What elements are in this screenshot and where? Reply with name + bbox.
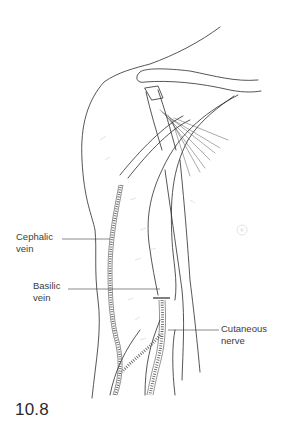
cephalic-vein-label: Cephalic vein [16, 231, 53, 255]
figure-canvas: Cephalic vein Basilic vein Cutaneous ner… [0, 0, 289, 433]
cephalic-vein-path [110, 185, 121, 395]
shoulder-contour [82, 27, 220, 398]
nipple-mark [237, 225, 247, 235]
cutaneous-nerve-label: Cutaneous nerve [221, 323, 267, 347]
figure-number: 10.8 [15, 400, 49, 420]
arm-anatomy-drawing [0, 0, 289, 433]
basilic-vein-label: Basilic vein [33, 280, 60, 304]
clavicle-contour [137, 69, 261, 92]
